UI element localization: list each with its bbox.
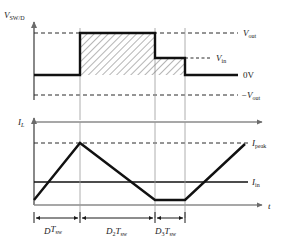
- waveform-figure: VSW/D Vout Vin 0V −Vout IL Ipeak Iin t: [0, 0, 287, 247]
- figure-canvas: VSW/D Vout Vin 0V −Vout IL Ipeak Iin t: [0, 0, 287, 247]
- top-plot-y-axis-label: VSW/D: [4, 10, 25, 21]
- interval-label-3: D3Tsw: [154, 226, 177, 237]
- vin-label: Vin: [216, 53, 226, 64]
- time-axis-label: t: [268, 201, 271, 211]
- vout-label: Vout: [243, 28, 257, 39]
- neg-vout-label: −Vout: [241, 90, 261, 101]
- iin-label: Iin: [251, 177, 260, 188]
- bottom-plot-y-axis-label: IL: [17, 117, 25, 128]
- zero-volt-label: 0V: [243, 70, 255, 80]
- inductor-current-waveform: [34, 143, 245, 200]
- bottom-plot-gridlines: [80, 122, 185, 218]
- interval-label-2: D2Tsw: [105, 226, 128, 237]
- ipeak-label: Ipeak: [251, 138, 266, 149]
- interval-dimension-arrows: [34, 212, 185, 223]
- interval-label-1: DTsw: [43, 224, 63, 236]
- hatched-pulse-area: [80, 33, 185, 75]
